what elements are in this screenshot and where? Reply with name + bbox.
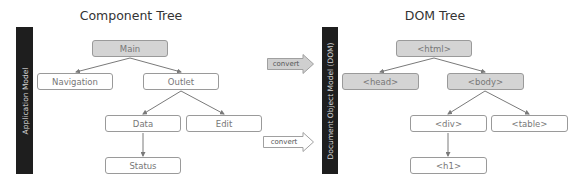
dom-label: Document Object Model (DOM) xyxy=(326,42,335,159)
node-head: <head> xyxy=(342,73,419,90)
node-outlet: Outlet xyxy=(143,73,219,90)
application-model-bar: Application Model xyxy=(16,27,33,174)
tree-connectors xyxy=(0,0,585,185)
convert-arrow-bottom: convert xyxy=(263,132,314,152)
convert-label-top: convert xyxy=(267,54,305,74)
node-status: Status xyxy=(105,157,181,174)
node-html: <html> xyxy=(396,40,472,57)
node-main: Main xyxy=(92,40,168,57)
node-navigation: Navigation xyxy=(37,73,113,90)
node-h1: <h1> xyxy=(410,157,487,174)
dom-tree-title: DOM Tree xyxy=(405,8,465,23)
convert-arrow-top: convert xyxy=(267,54,314,74)
node-edit: Edit xyxy=(186,115,262,132)
node-data: Data xyxy=(105,115,181,132)
node-body: <body> xyxy=(447,73,524,90)
component-tree-title: Component Tree xyxy=(80,8,183,23)
node-div: <div> xyxy=(410,115,487,132)
convert-label-bottom: convert xyxy=(263,132,305,152)
dom-bar: Document Object Model (DOM) xyxy=(322,27,338,174)
node-table: <table> xyxy=(491,115,568,132)
application-model-label: Application Model xyxy=(20,67,29,134)
